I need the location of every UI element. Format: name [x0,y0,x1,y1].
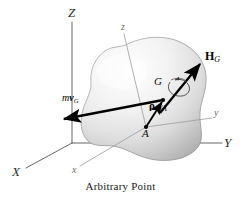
axis-label-Z: Z [68,6,75,19]
blob-highlight [96,55,148,89]
axis-label-X: X [12,165,20,178]
angular-momentum-label: HG [205,50,220,64]
linear-momentum-label: mvG [62,93,78,104]
point-label-G: G [154,76,162,87]
blob-shading-overlay [81,37,206,160]
rigid-body-blob [81,37,206,160]
axis-label-Y: Y [224,136,231,149]
axis-label-z: z [121,22,125,32]
position-vector-label: ρG/A [149,100,167,113]
axis-label-x: x [72,165,76,175]
global-axis-X-line [26,143,72,168]
point-label-A: A [142,128,149,139]
angular-momentum-symbol: H [205,49,214,63]
position-vector-subscript: G/A [155,105,167,113]
axis-label-y: y [214,108,218,118]
angular-momentum-subscript: G [214,55,220,64]
linear-momentum-subscript: G [74,97,79,104]
figure-caption: Arbitrary Point [0,180,241,192]
arbitrary-point-figure: Z X Y z x y G A mvG HG ρG/A Arbitrary Po… [0,0,241,201]
